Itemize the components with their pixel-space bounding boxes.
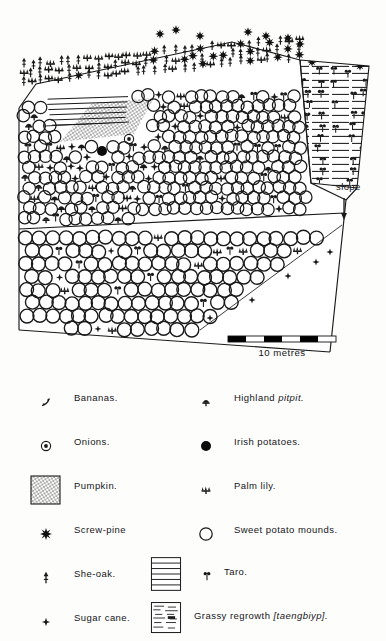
legend-item-taro: Taro. xyxy=(146,556,346,600)
irish-potato-icon xyxy=(186,426,226,466)
sweet-potato-mound-icon xyxy=(186,514,226,554)
legend-item-screw-pine: Screw-pine xyxy=(26,514,186,558)
screw-pine-marker xyxy=(208,51,218,61)
scale-segment xyxy=(246,336,264,342)
legend-label-sugar-cane: Sugar cane. xyxy=(74,612,130,623)
scale-segment xyxy=(300,336,318,342)
screw-pine-marker xyxy=(295,50,305,60)
legend: Bananas. Onions. Pumpkin. Screw-pine She xyxy=(0,378,386,641)
scale-segment xyxy=(228,336,246,342)
legend-item-sweet-potato-mounds: Sweet potato mounds. xyxy=(186,514,386,558)
screw-pine-marker xyxy=(150,46,160,56)
figure-page: slope 10 metres Bananas. Onions xyxy=(0,0,386,641)
banana-icon xyxy=(26,382,66,422)
legend-item-pumpkin: Pumpkin. xyxy=(26,470,186,514)
scale-segment xyxy=(318,336,336,342)
legend-item-onions: Onions. xyxy=(26,426,186,470)
legend-item-highland-pitpit: Highland pitpit. xyxy=(186,382,386,426)
screw-pine-marker xyxy=(195,31,205,41)
screw-pine-marker xyxy=(261,31,271,41)
screw-pine-marker xyxy=(243,27,253,37)
screw-pine-marker xyxy=(245,56,255,66)
garden-map-figure: slope 10 metres xyxy=(0,0,386,378)
palm-lily-icon xyxy=(186,470,226,510)
legend-label-taro: Taro. xyxy=(224,566,247,577)
legend-label-bananas: Bananas. xyxy=(74,392,118,403)
onion-icon xyxy=(26,426,66,466)
she-oak-icon xyxy=(26,558,66,598)
legend-label-pumpkin: Pumpkin. xyxy=(74,480,117,491)
screw-pine-icon xyxy=(26,514,66,554)
pumpkin-icon xyxy=(26,470,66,510)
sugar-cane-icon xyxy=(26,602,66,641)
screw-pine-marker xyxy=(188,51,198,61)
legend-label-irish-potatoes: Irish potatoes. xyxy=(234,436,300,447)
legend-label-highland-pitpit: Highland pitpit. xyxy=(234,392,304,403)
slope-label: slope xyxy=(336,181,361,192)
legend-label-palm-lily: Palm lily. xyxy=(234,480,276,491)
legend-item-bananas: Bananas. xyxy=(26,382,186,426)
screw-pine-marker xyxy=(295,39,305,49)
scale-caption: 10 metres xyxy=(258,347,305,358)
legend-item-grassy-regrowth: Grassy regrowth [taengbiyp]. xyxy=(146,600,386,641)
screw-pine-marker xyxy=(155,29,165,39)
screw-pine-marker xyxy=(218,50,228,60)
legend-label-sweet-potato-mounds: Sweet potato mounds. xyxy=(234,524,338,535)
map-svg: slope 10 metres xyxy=(0,0,386,378)
legend-label-screw-pine: Screw-pine xyxy=(74,524,126,535)
scale-segment xyxy=(264,336,282,342)
screw-pine-marker xyxy=(198,59,208,69)
scale-segment xyxy=(282,336,300,342)
legend-item-palm-lily: Palm lily. xyxy=(186,470,386,514)
legend-label-she-oak: She-oak. xyxy=(74,568,116,579)
irish-potato-marker xyxy=(97,146,107,156)
screw-pine-marker xyxy=(180,54,190,64)
screw-pine-marker xyxy=(171,25,181,35)
highland-pitpit-icon xyxy=(186,382,226,422)
legend-item-irish-potatoes: Irish potatoes. xyxy=(186,426,386,470)
screw-pine-marker xyxy=(283,33,293,43)
legend-label-grassy-regrowth: Grassy regrowth [taengbiyp]. xyxy=(194,610,328,621)
screw-pine-marker xyxy=(283,44,293,54)
legend-label-onions: Onions. xyxy=(74,436,110,447)
taro-icon xyxy=(198,567,216,585)
taro-swatch-icon xyxy=(146,554,186,594)
grassy-regrowth-icon xyxy=(146,598,186,638)
